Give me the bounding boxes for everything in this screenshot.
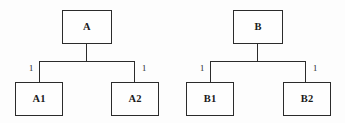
edge-drop-child-2 <box>134 61 135 82</box>
node-label-root: B <box>254 22 261 33</box>
node-box-child-2[interactable]: B2 <box>283 82 331 116</box>
node-box-root[interactable]: B <box>233 10 283 44</box>
edge-drop-child-1 <box>39 61 40 82</box>
tree-a: A 1 1 A1 A2 <box>0 0 175 123</box>
node-box-child-1[interactable]: A1 <box>15 82 63 116</box>
node-box-root[interactable]: A <box>62 10 112 44</box>
edge-multiplicity-label-1: 1 <box>200 64 204 73</box>
tree-b: B 1 1 B1 B2 <box>170 0 345 123</box>
node-label-child-2: A2 <box>128 94 141 105</box>
diagram-canvas: A 1 1 A1 A2 B <box>0 0 345 123</box>
node-label-child-2: B2 <box>301 94 314 105</box>
edge-drop-child-2 <box>305 61 306 82</box>
edge-root-stem <box>86 44 87 62</box>
node-label-child-1: A1 <box>32 94 45 105</box>
node-label-child-1: B1 <box>204 94 217 105</box>
edge-multiplicity-label-2: 1 <box>142 64 146 73</box>
edge-multiplicity-label-2: 1 <box>313 64 317 73</box>
node-box-child-2[interactable]: A2 <box>111 82 159 116</box>
edge-root-stem <box>257 44 258 62</box>
edge-horizontal-bus <box>39 61 135 62</box>
node-label-root: A <box>83 22 91 33</box>
edge-drop-child-1 <box>210 61 211 82</box>
edge-horizontal-bus <box>210 61 306 62</box>
node-box-child-1[interactable]: B1 <box>186 82 234 116</box>
edge-multiplicity-label-1: 1 <box>29 64 33 73</box>
